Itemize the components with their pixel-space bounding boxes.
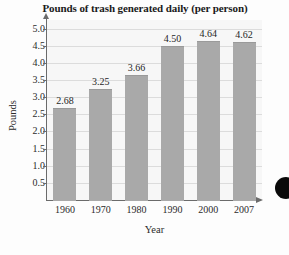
y-tick-mark <box>43 29 47 30</box>
bar <box>197 41 220 201</box>
y-axis-title: Pounds <box>7 91 18 141</box>
x-axis-line <box>46 200 258 201</box>
x-axis-arrow-icon <box>256 197 263 203</box>
bar-value-label: 3.66 <box>120 62 154 73</box>
gridline <box>47 80 262 81</box>
bar <box>233 42 256 201</box>
y-tick-label: 4.5 <box>19 41 45 51</box>
gridline <box>47 149 262 150</box>
gridline <box>47 183 262 184</box>
y-tick-mark <box>43 80 47 81</box>
x-tick-label: 1970 <box>81 204 121 215</box>
gridline <box>47 63 262 64</box>
gridline <box>47 46 262 47</box>
bar-value-label: 4.64 <box>191 28 225 39</box>
bar <box>125 75 148 201</box>
y-tick-mark <box>43 183 47 184</box>
y-axis-line <box>46 17 47 201</box>
y-tick-label-group: 5.04.54.03.53.02.52.01.51.00.5 <box>14 0 45 255</box>
gridline <box>47 114 262 115</box>
y-tick-mark <box>43 166 47 167</box>
y-tick-label: 0.5 <box>19 178 45 188</box>
x-tick-label: 1960 <box>45 204 85 215</box>
bar <box>161 46 184 201</box>
x-tick-label: 2007 <box>224 204 264 215</box>
y-tick-mark <box>43 97 47 98</box>
y-tick-label: 1.0 <box>19 161 45 171</box>
chart-title: Pounds of trash generated daily (per per… <box>18 2 272 15</box>
bar-value-label: 2.68 <box>48 95 82 106</box>
bar-value-label: 3.25 <box>84 76 118 87</box>
bar-value-label: 4.62 <box>227 29 261 40</box>
y-tick-mark <box>43 114 47 115</box>
gridline <box>47 131 262 132</box>
x-tick-label: 1980 <box>117 204 157 215</box>
y-tick-label: 1.5 <box>19 144 45 154</box>
plot-area <box>47 20 262 201</box>
y-tick-mark <box>43 63 47 64</box>
y-tick-label: 5.0 <box>19 24 45 34</box>
y-tick-label: 4.0 <box>19 58 45 68</box>
chart-screenshot: Pounds of trash generated daily (per per… <box>0 0 289 255</box>
y-tick-mark <box>43 149 47 150</box>
y-tick-mark <box>43 131 47 132</box>
x-tick-label: 1990 <box>152 204 192 215</box>
bar <box>53 108 76 201</box>
gridline <box>47 166 262 167</box>
y-tick-label: 3.0 <box>19 92 45 102</box>
bar <box>89 89 112 201</box>
y-tick-label: 2.0 <box>19 126 45 136</box>
y-tick-mark <box>43 46 47 47</box>
y-tick-label: 3.5 <box>19 75 45 85</box>
x-tick-label: 2000 <box>188 204 228 215</box>
y-tick-label: 2.5 <box>19 109 45 119</box>
bar-value-label: 4.50 <box>155 33 189 44</box>
x-axis-title: Year <box>47 224 262 235</box>
